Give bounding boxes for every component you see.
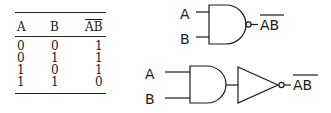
and-input-a: A bbox=[145, 66, 155, 82]
not-gate bbox=[238, 67, 291, 103]
nand-output: AB bbox=[260, 17, 279, 33]
nand-gate bbox=[196, 5, 258, 44]
not-output: AB bbox=[293, 77, 312, 93]
and-gate bbox=[165, 66, 238, 103]
and-input-b: B bbox=[145, 91, 155, 107]
gate-diagrams: A B AB A B AB bbox=[0, 0, 331, 113]
nand-input-b: B bbox=[180, 31, 190, 47]
nand-input-a: A bbox=[180, 6, 190, 22]
